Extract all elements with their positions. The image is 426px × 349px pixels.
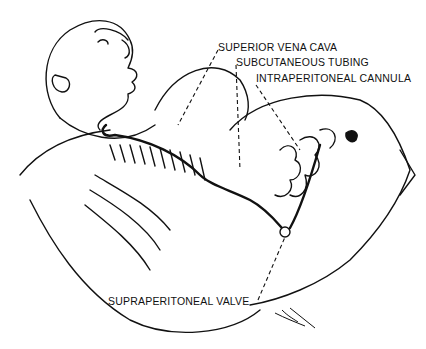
- label-supraperitoneal-valve: SUPRAPERITONEAL VALVE: [108, 295, 250, 307]
- abdomen-outline: [230, 95, 410, 305]
- nose: [122, 40, 129, 58]
- valve: [280, 227, 290, 237]
- subcutaneous-tubing-path: [103, 125, 282, 228]
- head-outline: [46, 21, 137, 130]
- torso-left: [30, 200, 260, 332]
- rib-arcs: [85, 175, 170, 270]
- shadow-blot: [346, 131, 357, 142]
- label-superior-vena-cava: SUPERIOR VENA CAVA: [218, 41, 337, 53]
- artist-signature: [275, 310, 305, 326]
- ribs: [110, 145, 205, 180]
- arm: [155, 68, 248, 120]
- cannula-path: [290, 145, 320, 228]
- ear: [52, 75, 69, 92]
- eye: [98, 40, 108, 44]
- label-intraperitoneal-cannula: INTRAPERITONEAL CANNULA: [256, 72, 411, 84]
- shunt-diagram: SUPERIOR VENA CAVA SUBCUTANEOUS TUBING I…: [0, 0, 426, 349]
- label-subcutaneous-tubing: SUBCUTANEOUS TUBING: [236, 56, 369, 68]
- intestines: [275, 129, 335, 196]
